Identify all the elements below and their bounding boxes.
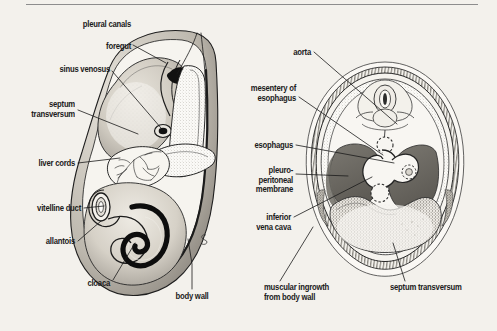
label-body-wall: body wall xyxy=(165,292,218,302)
anatomy-figure: pleural canals foregut sinus venosus sep… xyxy=(0,0,497,331)
label-cloaca: cloaca xyxy=(73,279,110,289)
label-muscular-ingrowth-from-body-wall: muscular ingrowth from body wall xyxy=(264,283,356,302)
right-transverse-drawing xyxy=(306,62,464,276)
label-vitelline-duct: vitelline duct xyxy=(17,204,81,214)
label-mesentery-of-esophagus: mesentery of esophagus xyxy=(235,84,296,103)
label-allantois: allantois xyxy=(29,237,75,247)
leader-muscular-ingrowth xyxy=(280,227,313,281)
label-aorta: aorta xyxy=(279,48,311,58)
label-septum-transversum: septum transversum xyxy=(11,100,75,119)
label-inferior-vena-cava: inferior vena cava xyxy=(245,213,291,232)
label-pleural-canals: pleural canals xyxy=(67,20,131,30)
label-esophagus: esophagus xyxy=(241,141,293,151)
label-sinus-venosus: sinus venosus xyxy=(36,65,110,75)
label-pleuroperitoneal-membrane: pleuro- peritoneal membrane xyxy=(242,166,293,195)
label-foregut: foregut xyxy=(67,42,131,52)
label-septum-transversum-right: septum transversum xyxy=(390,283,487,293)
label-liver-cords: liver cords xyxy=(20,159,75,169)
